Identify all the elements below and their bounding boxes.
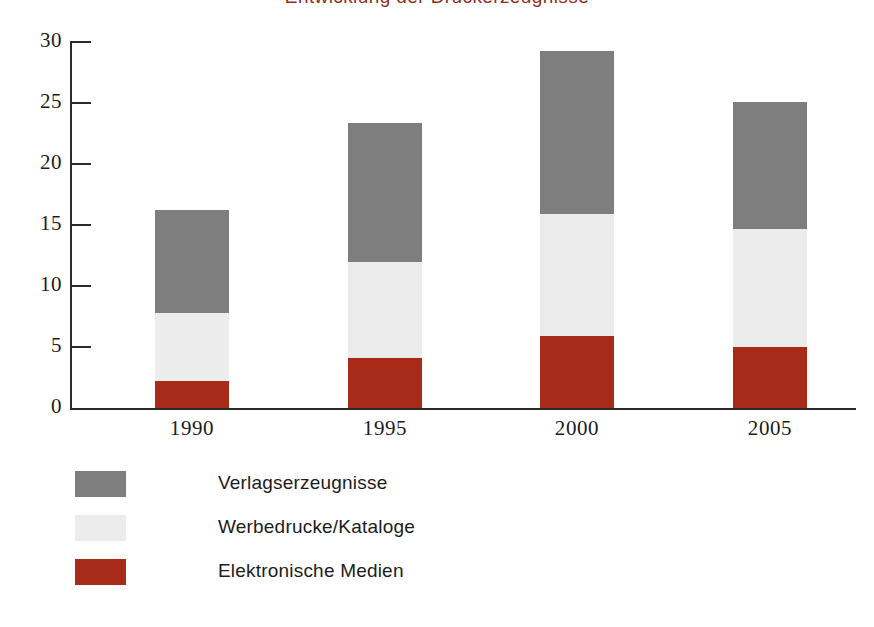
legend-item[interactable]: Werbedrucke/Kataloge <box>75 512 775 556</box>
x-axis-tick-label: 1990 <box>115 416 269 441</box>
x-axis-line <box>70 408 856 410</box>
legend-label: Verlagserzeugnisse <box>218 468 387 498</box>
bar-segment[interactable] <box>348 123 422 262</box>
y-axis-tick <box>70 102 91 104</box>
y-axis-tick-label: 25 <box>14 89 62 114</box>
bar-segment[interactable] <box>733 229 807 347</box>
y-axis-labels: 302520151050 <box>0 0 62 430</box>
bar-segment[interactable] <box>155 313 229 381</box>
legend-swatch <box>75 559 126 585</box>
y-axis-tick-label: 10 <box>14 272 62 297</box>
x-axis-tick-label: 2005 <box>693 416 847 441</box>
bar-segment[interactable] <box>540 336 614 408</box>
bar-segment[interactable] <box>540 51 614 214</box>
bar-group[interactable] <box>348 0 422 408</box>
legend-label: Werbedrucke/Kataloge <box>218 512 415 542</box>
bar-segment[interactable] <box>733 347 807 408</box>
y-axis-tick-label: 20 <box>14 150 62 175</box>
chart-page: Entwicklung der Druckerzeugnisse 3025201… <box>0 0 874 627</box>
bar-segment[interactable] <box>540 214 614 336</box>
bar-group[interactable] <box>733 0 807 408</box>
legend-swatch <box>75 515 126 541</box>
x-axis-tick-label: 1995 <box>308 416 462 441</box>
bar-segment[interactable] <box>733 102 807 229</box>
y-axis-tick <box>70 285 91 287</box>
legend-swatch <box>75 471 126 497</box>
y-axis-tick-label: 5 <box>14 333 62 358</box>
y-axis-tick <box>70 224 91 226</box>
x-axis-tick-label: 2000 <box>500 416 654 441</box>
y-axis-tick-label: 30 <box>14 28 62 53</box>
y-axis-tick <box>70 41 91 43</box>
bar-group[interactable] <box>540 0 614 408</box>
bar-group[interactable] <box>155 0 229 408</box>
bar-segment[interactable] <box>348 358 422 408</box>
bar-segment[interactable] <box>155 210 229 312</box>
plot-area: 302520151050 1990199520002005 <box>0 0 874 430</box>
y-axis-tick-label: 15 <box>14 211 62 236</box>
bar-segment[interactable] <box>155 381 229 408</box>
y-axis-tick <box>70 346 91 348</box>
legend-item[interactable]: Elektronische Medien <box>75 556 775 600</box>
legend-item[interactable]: Verlagserzeugnisse <box>75 468 775 512</box>
chart-legend: VerlagserzeugnisseWerbedrucke/KatalogeEl… <box>75 468 775 600</box>
y-axis-tick-label: 0 <box>14 394 62 419</box>
y-axis-tick <box>70 163 91 165</box>
bar-segment[interactable] <box>348 262 422 358</box>
legend-label: Elektronische Medien <box>218 556 404 586</box>
